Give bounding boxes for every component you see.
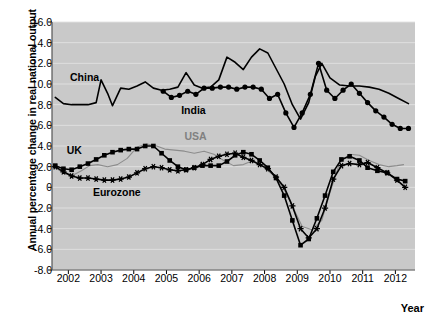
data-point-marker [324, 88, 329, 93]
data-point-marker [216, 163, 221, 168]
data-point-marker [210, 86, 215, 91]
data-point-marker [234, 87, 239, 92]
data-point-marker [167, 158, 172, 163]
data-point-marker [169, 95, 174, 100]
data-point-marker [381, 114, 386, 119]
data-point-marker [110, 150, 115, 155]
data-point-marker [86, 161, 91, 166]
data-point-marker [291, 125, 296, 130]
data-point-marker [298, 243, 303, 248]
data-point-marker [339, 157, 344, 162]
data-point-marker [308, 92, 313, 97]
data-point-marker [249, 152, 254, 157]
data-point-marker [331, 170, 336, 175]
chart-plot-area [0, 0, 430, 316]
data-point-marker [300, 110, 305, 115]
data-point-marker [315, 216, 320, 221]
data-point-marker [118, 148, 123, 153]
data-point-marker [226, 85, 231, 90]
data-point-marker [365, 100, 370, 105]
data-point-marker [218, 85, 223, 90]
data-point-marker [225, 159, 230, 164]
data-point-marker [69, 167, 74, 172]
data-point-marker [77, 164, 82, 169]
data-point-marker [373, 108, 378, 113]
data-point-marker [398, 126, 403, 131]
chart-root: Annual percentage change in real nationa… [0, 0, 430, 316]
data-point-marker [135, 147, 140, 152]
data-point-marker [349, 81, 354, 86]
data-point-marker [275, 92, 280, 97]
data-point-marker [259, 87, 264, 92]
data-point-marker [323, 193, 328, 198]
data-point-marker [282, 193, 287, 198]
data-point-marker [201, 86, 206, 91]
data-point-marker [185, 89, 190, 94]
series-label-uk: UK [67, 144, 82, 156]
data-point-marker [151, 144, 156, 149]
data-point-marker [241, 150, 246, 155]
data-point-marker [267, 96, 272, 101]
data-point-marker [127, 147, 132, 152]
data-point-marker [251, 85, 256, 90]
data-point-marker [177, 93, 182, 98]
series-label-usa: USA [184, 130, 206, 142]
data-point-marker [208, 163, 213, 168]
series-label-india: India [181, 104, 206, 116]
data-point-marker [357, 91, 362, 96]
data-point-marker [332, 96, 337, 101]
data-point-marker [406, 126, 411, 131]
data-point-marker [242, 85, 247, 90]
data-point-marker [193, 92, 198, 97]
data-point-marker [316, 61, 321, 66]
data-point-marker [390, 122, 395, 127]
data-point-marker [290, 218, 295, 223]
data-point-marker [94, 157, 99, 162]
data-point-marker [347, 154, 352, 159]
data-point-marker [159, 151, 164, 156]
data-point-marker [143, 144, 148, 149]
data-point-marker [102, 153, 107, 158]
data-point-marker [340, 88, 345, 93]
data-point-marker [283, 110, 288, 115]
series-label-china: China [70, 71, 99, 83]
data-point-marker [403, 179, 408, 184]
data-point-marker [365, 165, 370, 170]
series-label-eurozone: Eurozone [93, 186, 141, 198]
data-point-marker [161, 89, 166, 94]
